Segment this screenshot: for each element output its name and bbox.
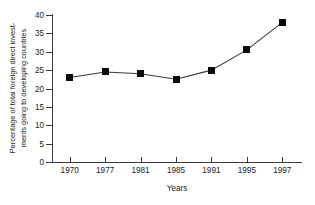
data-point-marker [66, 74, 73, 81]
y-tick-mark [46, 52, 52, 53]
x-tick-mark [141, 157, 142, 163]
y-tick-mark [46, 33, 52, 34]
y-tick-label: 20 [4, 84, 44, 93]
x-tick-label: 1995 [227, 166, 267, 175]
data-point-marker [173, 76, 180, 83]
data-point-marker [243, 46, 250, 53]
y-tick-mark [46, 144, 52, 145]
y-tick-mark [46, 107, 52, 108]
x-tick-mark [70, 157, 71, 163]
data-point-marker [208, 67, 215, 74]
data-point-marker [102, 68, 109, 75]
chart-figure: Percentage of total foreign direct inves… [0, 0, 315, 205]
y-tick-label: 0 [4, 158, 44, 167]
x-axis-title: Years [52, 184, 302, 193]
x-tick-label: 1970 [50, 166, 90, 175]
y-tick-mark [46, 162, 52, 163]
y-tick-label: 25 [4, 66, 44, 75]
y-tick-label: 10 [4, 121, 44, 130]
y-tick-mark [46, 89, 52, 90]
x-tick-label: 1997 [262, 166, 302, 175]
y-tick-mark [46, 125, 52, 126]
y-tick-label: 15 [4, 102, 44, 111]
y-tick-label: 5 [4, 139, 44, 148]
y-axis-line [52, 14, 53, 163]
y-tick-label: 35 [4, 29, 44, 38]
x-tick-mark [176, 157, 177, 163]
x-tick-mark [105, 157, 106, 163]
y-tick-mark [46, 70, 52, 71]
x-tick-mark [282, 157, 283, 163]
x-tick-label: 1977 [85, 166, 125, 175]
y-tick-label: 40 [4, 11, 44, 20]
x-tick-mark [247, 157, 248, 163]
data-point-marker [279, 19, 286, 26]
y-tick-label: 30 [4, 47, 44, 56]
x-tick-label: 1985 [156, 166, 196, 175]
x-tick-label: 1991 [191, 166, 231, 175]
x-tick-mark [211, 157, 212, 163]
data-point-marker [137, 70, 144, 77]
x-tick-label: 1981 [121, 166, 161, 175]
x-axis-line [52, 162, 302, 163]
y-tick-mark [46, 15, 52, 16]
